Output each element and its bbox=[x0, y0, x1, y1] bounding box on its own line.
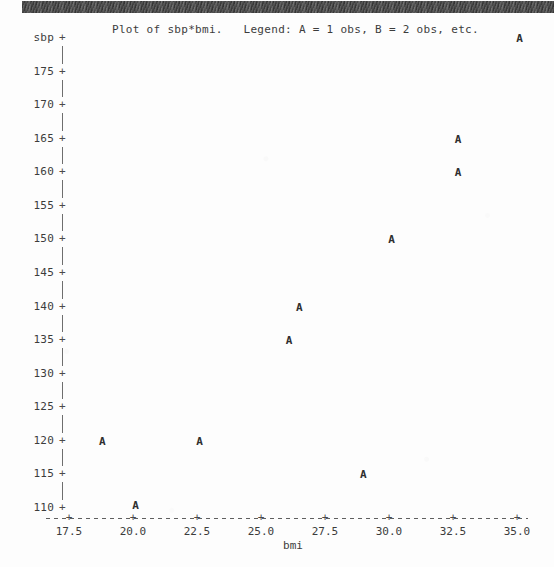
y-axis-tick-mark: + bbox=[59, 501, 66, 514]
y-axis-tick-mark: + bbox=[59, 300, 66, 313]
y-axis-tick-label: 175 bbox=[8, 65, 54, 78]
x-axis-tick-mark: + bbox=[66, 511, 73, 524]
y-axis-tick-label: 130 bbox=[8, 367, 54, 380]
x-axis-tick-label: 25.0 bbox=[248, 525, 275, 538]
x-axis-tick-mark: + bbox=[322, 511, 329, 524]
y-axis-tick-mark: + bbox=[59, 232, 66, 245]
data-point-marker: A bbox=[516, 32, 523, 45]
data-point-marker: A bbox=[455, 166, 462, 179]
y-axis-tick-label: 150 bbox=[8, 232, 54, 245]
y-axis-line-segment bbox=[62, 180, 63, 198]
y-axis-tick-label: 110 bbox=[8, 501, 54, 514]
data-point-marker: A bbox=[455, 132, 462, 145]
scan-edge-banner bbox=[22, 1, 554, 13]
y-axis-tick-mark: + bbox=[59, 98, 66, 111]
x-axis-title: bmi bbox=[283, 539, 303, 552]
x-axis-tick-mark: + bbox=[450, 511, 457, 524]
y-axis-tick-label: 125 bbox=[8, 400, 54, 413]
y-axis-tick-label: 120 bbox=[8, 434, 54, 447]
y-axis-line-segment bbox=[62, 281, 63, 299]
y-axis-tick-label: 155 bbox=[8, 199, 54, 212]
x-axis-tick-mark: + bbox=[514, 511, 521, 524]
y-axis-tick-mark: + bbox=[59, 165, 66, 178]
y-axis-line-segment bbox=[62, 247, 63, 265]
y-axis-tick-label: 170 bbox=[8, 98, 54, 111]
y-axis-line-segment bbox=[62, 147, 63, 165]
y-axis-tick-mark: + bbox=[59, 333, 66, 346]
x-axis-tick-label: 22.5 bbox=[184, 525, 211, 538]
y-axis-tick-mark: + bbox=[59, 31, 66, 44]
y-axis-tick-mark: + bbox=[59, 400, 66, 413]
data-point-marker: A bbox=[196, 434, 203, 447]
y-axis-tick-mark: + bbox=[59, 467, 66, 480]
y-axis-tick-label: 165 bbox=[8, 132, 54, 145]
x-axis-tick-label: 20.0 bbox=[120, 525, 147, 538]
x-axis-tick-label: 27.5 bbox=[312, 525, 339, 538]
data-point-marker: A bbox=[388, 233, 395, 246]
x-axis-tick-mark: + bbox=[194, 511, 201, 524]
y-axis-tick-mark: + bbox=[59, 434, 66, 447]
x-axis-tick-label: 30.0 bbox=[376, 525, 403, 538]
x-axis-tick-label: 35.0 bbox=[504, 525, 531, 538]
y-axis-line-segment bbox=[62, 315, 63, 333]
y-axis-line-segment bbox=[62, 113, 63, 131]
y-axis-line-segment bbox=[62, 415, 63, 433]
scan-speckle-overlay bbox=[0, 0, 554, 567]
y-axis-tick-label: 160 bbox=[8, 165, 54, 178]
page-title: Plot of sbp*bmi. Legend: A = 1 obs, B = … bbox=[112, 23, 479, 36]
y-axis-line-segment bbox=[62, 382, 63, 400]
x-axis-tick-label: 17.5 bbox=[56, 525, 83, 538]
sas-plot-page: Plot of sbp*bmi. Legend: A = 1 obs, B = … bbox=[0, 0, 554, 567]
data-point-marker: A bbox=[296, 300, 303, 313]
x-axis-tick-label: 32.5 bbox=[440, 525, 467, 538]
y-axis-tick-mark: + bbox=[59, 65, 66, 78]
x-axis-tick-mark: + bbox=[386, 511, 393, 524]
y-axis-tick-label: 140 bbox=[8, 300, 54, 313]
y-axis-tick-mark: + bbox=[59, 266, 66, 279]
data-point-marker: A bbox=[99, 434, 106, 447]
y-axis-line-segment bbox=[62, 482, 63, 500]
data-point-marker: A bbox=[360, 468, 367, 481]
y-axis-tick-mark: + bbox=[59, 367, 66, 380]
y-axis-tick-mark: + bbox=[59, 132, 66, 145]
y-axis-tick-label: 145 bbox=[8, 266, 54, 279]
y-axis-line-segment bbox=[62, 348, 63, 366]
x-axis-tick-mark: + bbox=[258, 511, 265, 524]
y-axis-tick-mark: + bbox=[59, 199, 66, 212]
data-point-marker: A bbox=[132, 498, 139, 511]
y-axis-line-segment bbox=[62, 46, 63, 64]
y-axis-tick-label: sbp bbox=[8, 31, 54, 44]
y-axis-line-segment bbox=[62, 214, 63, 232]
data-point-marker: A bbox=[286, 334, 293, 347]
y-axis-tick-label: 135 bbox=[8, 333, 54, 346]
y-axis-line-segment bbox=[62, 80, 63, 98]
y-axis-tick-label: 115 bbox=[8, 467, 54, 480]
y-axis-line-segment bbox=[62, 449, 63, 467]
x-axis-tick-mark: + bbox=[130, 511, 137, 524]
